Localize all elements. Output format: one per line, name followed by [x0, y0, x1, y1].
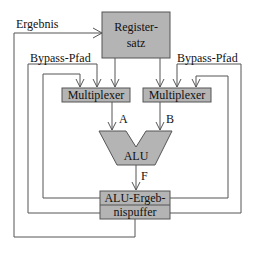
multiplexer-right-label: Multiplexer	[149, 88, 206, 102]
ergebnis-label: Ergebnis	[16, 17, 59, 31]
bypass-left-outer	[28, 64, 100, 213]
bypass-right-label: Bypass-Pfad	[177, 51, 238, 65]
label-a: A	[119, 112, 128, 126]
registersatz-block	[102, 12, 170, 58]
pipeline-bypass-diagram: Register- satz Multiplexer Multiplexer A…	[0, 0, 258, 253]
bypass-right-outer	[170, 64, 241, 213]
label-b: B	[166, 112, 174, 126]
alu-label: ALU	[124, 149, 149, 163]
bypass-left-label: Bypass-Pfad	[30, 51, 91, 65]
registersatz-label-2: satz	[127, 36, 146, 50]
buffer-label-2: nispuffer	[113, 205, 156, 219]
multiplexer-left-label: Multiplexer	[68, 88, 125, 102]
registersatz-label-1: Register-	[114, 20, 158, 34]
buffer-label-1: ALU-Ergeb-	[104, 191, 165, 205]
label-f: F	[141, 169, 148, 183]
